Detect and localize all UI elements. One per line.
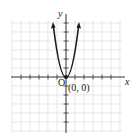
x-axis-label: x (124, 76, 130, 87)
origin-label: O (58, 77, 65, 88)
y-axis-label: y (57, 8, 63, 19)
vertex-label: (0, 0) (68, 82, 90, 94)
coordinate-plane: y x O (0, 0) (0, 0, 137, 137)
